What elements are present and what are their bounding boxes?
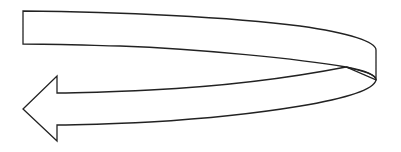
u-turn-arrow-icon — [0, 0, 401, 152]
outgoing-band — [23, 11, 376, 80]
return-band-with-arrowhead — [23, 67, 376, 141]
diagram-canvas — [0, 0, 401, 152]
